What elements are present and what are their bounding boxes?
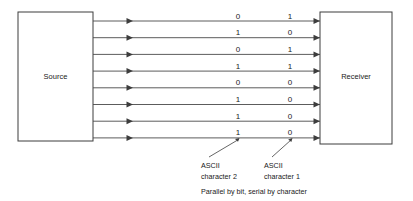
wire-mid-arrowhead-icon xyxy=(127,118,134,124)
bit-char2-row-2: 1 xyxy=(236,28,241,37)
bit-char2-row-3: 0 xyxy=(236,45,241,54)
wire-end-arrowhead-icon xyxy=(314,118,321,124)
bit-char1-row-2: 0 xyxy=(288,28,293,37)
bit-char1-row-5: 0 xyxy=(288,78,293,87)
diagram-caption: Parallel by bit, serial by character xyxy=(201,187,307,196)
wire-row-3 xyxy=(93,51,320,57)
wire-end-arrowhead-icon xyxy=(314,68,321,74)
wire-mid-arrowhead-icon xyxy=(127,51,134,57)
wire-end-arrowhead-icon xyxy=(314,85,321,91)
wire-row-6 xyxy=(93,102,320,108)
bit-char2-row-8: 1 xyxy=(236,128,241,137)
bit-char2-row-4: 1 xyxy=(236,62,241,71)
annotation-ascii-char1-line2: character 1 xyxy=(264,172,300,181)
wire-end-arrowhead-icon xyxy=(314,18,321,24)
bit-char1-row-4: 1 xyxy=(288,62,293,71)
wire-mid-arrowhead-icon xyxy=(127,102,134,108)
wire-mid-arrowhead-icon xyxy=(127,35,134,41)
wire-end-arrowhead-icon xyxy=(314,102,321,108)
leader-ascii-character-2 xyxy=(209,138,240,157)
bit-char1-row-7: 0 xyxy=(288,112,293,121)
wire-mid-arrowhead-icon xyxy=(127,135,134,141)
leader-ascii-character-1 xyxy=(272,138,293,157)
bit-char2-row-7: 1 xyxy=(236,112,241,121)
wire-row-7 xyxy=(93,118,320,124)
bit-char1-row-8: 0 xyxy=(288,128,293,137)
bit-char2-row-6: 1 xyxy=(236,95,241,104)
wire-end-arrowhead-icon xyxy=(314,51,321,57)
wire-row-1 xyxy=(93,18,320,24)
parallel-transmission-diagram: Source Receiver xyxy=(0,0,413,201)
wire-row-8 xyxy=(93,135,320,141)
bit-char1-row-6: 0 xyxy=(288,95,293,104)
annotation-ascii-char2-line1: ASCII xyxy=(201,161,220,170)
receiver-box-label: Receiver xyxy=(341,72,371,81)
bit-char2-row-1: 0 xyxy=(236,12,241,21)
bit-char1-row-3: 1 xyxy=(288,45,293,54)
diagram-canvas: Source Receiver xyxy=(0,0,413,201)
bit-char1-row-1: 1 xyxy=(288,12,293,21)
wire-end-arrowhead-icon xyxy=(314,135,321,141)
wire-row-5 xyxy=(93,85,320,91)
annotation-ascii-char2-line2: character 2 xyxy=(201,172,237,181)
leader-line xyxy=(209,140,239,158)
wire-mid-arrowhead-icon xyxy=(127,85,134,91)
annotation-ascii-char1-line1: ASCII xyxy=(264,161,283,170)
source-box-label: Source xyxy=(44,72,68,81)
wire-end-arrowhead-icon xyxy=(314,35,321,41)
leader-line xyxy=(272,140,292,158)
wire-mid-arrowhead-icon xyxy=(127,68,134,74)
bit-char2-row-5: 0 xyxy=(236,78,241,87)
wire-row-2 xyxy=(93,35,320,41)
wire-row-4 xyxy=(93,68,320,74)
wire-mid-arrowhead-icon xyxy=(127,18,134,24)
